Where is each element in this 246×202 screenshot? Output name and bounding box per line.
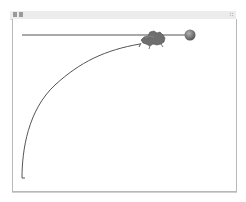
curve-track — [22, 44, 140, 178]
scene-graphics — [0, 0, 246, 202]
app-window — [0, 0, 246, 202]
creature-figure[interactable] — [139, 31, 165, 49]
ball[interactable] — [185, 30, 196, 41]
